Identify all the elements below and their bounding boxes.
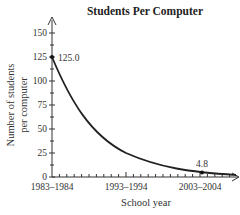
annotation-end: 4.8 <box>196 159 208 169</box>
x-tick-1993: 1993–1994 <box>105 182 148 192</box>
y-tick-100: 100 <box>33 76 48 86</box>
y-tick-0: 0 <box>42 172 47 182</box>
y-axis-label-line1: Number of students <box>5 64 16 147</box>
y-tick-75: 75 <box>38 100 48 110</box>
y-tick-150: 150 <box>33 28 48 38</box>
y-tick-50: 50 <box>38 124 48 134</box>
data-point-end <box>200 170 204 174</box>
chart-plot: 0 25 50 75 100 125 150 1983–1984 1993–19… <box>0 0 240 215</box>
annotation-start: 125.0 <box>58 53 80 63</box>
y-tick-125: 125 <box>33 52 48 62</box>
x-tick-2003: 2003–2004 <box>179 182 222 192</box>
data-line <box>52 57 236 175</box>
data-point-start <box>50 55 54 59</box>
x-tick-1983: 1983–1984 <box>31 182 74 192</box>
y-tick-25: 25 <box>38 148 48 158</box>
x-axis-label: School year <box>121 197 171 208</box>
y-axis-label-line2: per computer <box>18 77 29 133</box>
